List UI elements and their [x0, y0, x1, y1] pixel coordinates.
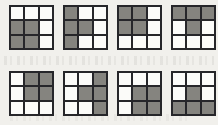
puzzle-grid-5[interactable]	[9, 71, 54, 116]
grid-cell[interactable]	[148, 36, 160, 48]
puzzle-grid-7[interactable]	[117, 71, 162, 116]
grid-cell[interactable]	[25, 7, 37, 19]
grid-cell[interactable]	[65, 21, 77, 33]
grid-cell[interactable]	[148, 73, 160, 85]
grid-cell[interactable]	[40, 7, 52, 19]
grid-cell[interactable]	[79, 21, 91, 33]
grid-cell[interactable]	[65, 73, 77, 85]
grid-cell[interactable]	[202, 102, 214, 114]
puzzle-grid-6[interactable]	[63, 71, 108, 116]
grid-cell[interactable]	[119, 21, 131, 33]
grid-cell[interactable]	[187, 102, 199, 114]
grid-cell[interactable]	[94, 7, 106, 19]
grid-cell[interactable]	[119, 36, 131, 48]
grid-row-bottom	[9, 71, 218, 119]
grid-cell[interactable]	[25, 21, 37, 33]
grid-cell[interactable]	[187, 7, 199, 19]
puzzle-grid-4[interactable]	[171, 5, 216, 50]
grid-cell[interactable]	[173, 36, 185, 48]
grid-cell[interactable]	[202, 21, 214, 33]
grid-cell[interactable]	[65, 36, 77, 48]
grid-cell[interactable]	[173, 21, 185, 33]
grid-row-top	[9, 5, 218, 53]
grid-cell[interactable]	[40, 21, 52, 33]
puzzle-grid-3[interactable]	[117, 5, 162, 50]
grid-cell[interactable]	[94, 21, 106, 33]
grid-cell[interactable]	[119, 73, 131, 85]
grid-cell[interactable]	[25, 36, 37, 48]
grid-cell[interactable]	[148, 102, 160, 114]
grid-cell[interactable]	[11, 102, 23, 114]
grid-cell[interactable]	[79, 73, 91, 85]
grid-cell[interactable]	[133, 36, 145, 48]
grid-cell[interactable]	[202, 7, 214, 19]
grid-cell[interactable]	[79, 102, 91, 114]
grid-cell[interactable]	[94, 73, 106, 85]
grid-cell[interactable]	[11, 36, 23, 48]
grid-cell[interactable]	[133, 87, 145, 99]
grid-cell[interactable]	[187, 36, 199, 48]
grid-cell[interactable]	[187, 87, 199, 99]
puzzle-grid-1[interactable]	[9, 5, 54, 50]
grid-cell[interactable]	[202, 36, 214, 48]
puzzle-grid-2[interactable]	[63, 5, 108, 50]
grid-cell[interactable]	[133, 102, 145, 114]
grid-cell[interactable]	[11, 73, 23, 85]
figure-root	[0, 0, 218, 125]
grid-cell[interactable]	[40, 87, 52, 99]
grid-cell[interactable]	[148, 87, 160, 99]
grid-cell[interactable]	[94, 102, 106, 114]
grid-cell[interactable]	[40, 73, 52, 85]
grid-cell[interactable]	[11, 21, 23, 33]
grid-cell[interactable]	[173, 87, 185, 99]
grid-cell[interactable]	[65, 87, 77, 99]
grid-cell[interactable]	[40, 102, 52, 114]
grid-cell[interactable]	[119, 87, 131, 99]
grid-cell[interactable]	[187, 21, 199, 33]
grid-cell[interactable]	[40, 36, 52, 48]
grid-cell[interactable]	[25, 102, 37, 114]
grid-cell[interactable]	[119, 7, 131, 19]
grid-cell[interactable]	[133, 7, 145, 19]
grid-cell[interactable]	[65, 102, 77, 114]
grid-cell[interactable]	[25, 87, 37, 99]
grid-cell[interactable]	[173, 73, 185, 85]
puzzle-grid-8[interactable]	[171, 71, 216, 116]
grid-cell[interactable]	[148, 7, 160, 19]
grid-collection	[0, 0, 218, 125]
grid-cell[interactable]	[25, 73, 37, 85]
grid-cell[interactable]	[79, 7, 91, 19]
grid-cell[interactable]	[173, 7, 185, 19]
grid-cell[interactable]	[148, 21, 160, 33]
grid-cell[interactable]	[65, 7, 77, 19]
grid-cell[interactable]	[79, 87, 91, 99]
grid-cell[interactable]	[133, 73, 145, 85]
grid-cell[interactable]	[173, 102, 185, 114]
grid-cell[interactable]	[119, 102, 131, 114]
grid-cell[interactable]	[202, 87, 214, 99]
grid-cell[interactable]	[94, 36, 106, 48]
grid-cell[interactable]	[187, 73, 199, 85]
grid-cell[interactable]	[94, 87, 106, 99]
grid-cell[interactable]	[11, 87, 23, 99]
grid-cell[interactable]	[202, 73, 214, 85]
grid-cell[interactable]	[133, 21, 145, 33]
grid-cell[interactable]	[11, 7, 23, 19]
grid-cell[interactable]	[79, 36, 91, 48]
